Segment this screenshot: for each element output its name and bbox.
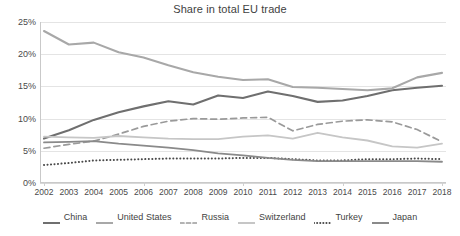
x-axis-tick: [243, 182, 244, 186]
line-chart: Share in total EU trade 0%5%10%15%20%25%…: [0, 0, 460, 236]
x-axis-tick: [144, 182, 145, 186]
legend-swatch-icon: [238, 213, 255, 221]
series-line-united-states: [44, 31, 442, 90]
x-axis-labels: 2002200320042005200620072008200920102011…: [40, 187, 446, 201]
legend-label: Switzerland: [259, 212, 306, 222]
x-axis-tick-label: 2013: [308, 187, 327, 197]
series-line-switzerland: [44, 133, 442, 148]
x-axis-tick-label: 2015: [358, 187, 377, 197]
x-axis-tick-label: 2009: [209, 187, 228, 197]
series-line-china: [44, 86, 442, 139]
series-lines: [40, 22, 446, 183]
x-axis-tick-label: 2008: [184, 187, 203, 197]
legend-swatch-icon: [96, 213, 113, 221]
legend-swatch-icon: [314, 213, 331, 221]
chart-legend: ChinaUnited StatesRussiaSwitzerlandTurke…: [0, 208, 460, 226]
x-axis-tick-label: 2002: [35, 187, 54, 197]
x-axis-tick-label: 2011: [259, 187, 277, 197]
y-axis-tick-label: 0%: [2, 178, 36, 188]
y-axis-tick-label: 5%: [2, 146, 36, 156]
legend-item-japan[interactable]: Japan: [372, 212, 418, 222]
x-axis-tick-label: 2018: [433, 187, 452, 197]
x-axis-tick-label: 2005: [109, 187, 128, 197]
chart-title: Share in total EU trade: [0, 3, 460, 15]
legend-item-china[interactable]: China: [43, 212, 88, 222]
legend-label: Russia: [201, 212, 229, 222]
legend-item-united-states[interactable]: United States: [96, 212, 171, 222]
x-axis-tick-label: 2003: [59, 187, 78, 197]
x-axis-tick-label: 2012: [283, 187, 302, 197]
y-axis-tick-label: 10%: [2, 114, 36, 124]
legend-item-turkey[interactable]: Turkey: [314, 212, 362, 222]
legend-label: Japan: [393, 212, 418, 222]
y-axis-tick-label: 20%: [2, 49, 36, 59]
y-axis-tick-label: 15%: [2, 81, 36, 91]
x-axis-tick: [343, 182, 344, 186]
x-axis-tick-label: 2006: [134, 187, 153, 197]
y-axis-labels: 0%5%10%15%20%25%: [0, 22, 36, 183]
x-axis-tick: [442, 182, 443, 186]
x-axis-tick-label: 2007: [159, 187, 178, 197]
legend-swatch-icon: [180, 213, 197, 221]
x-axis-tick-label: 2004: [84, 187, 103, 197]
x-axis-tick-label: 2014: [333, 187, 352, 197]
legend-label: China: [64, 212, 88, 222]
x-axis-tick-label: 2010: [234, 187, 253, 197]
legend-swatch-icon: [372, 213, 389, 221]
x-axis-tick-label: 2016: [383, 187, 402, 197]
y-axis-tick-label: 25%: [2, 17, 36, 27]
legend-label: United States: [117, 212, 171, 222]
x-axis-tick: [44, 182, 45, 186]
legend-item-russia[interactable]: Russia: [180, 212, 229, 222]
legend-label: Turkey: [335, 212, 362, 222]
x-axis-tick-label: 2017: [408, 187, 427, 197]
legend-item-switzerland[interactable]: Switzerland: [238, 212, 306, 222]
legend-swatch-icon: [43, 213, 60, 221]
